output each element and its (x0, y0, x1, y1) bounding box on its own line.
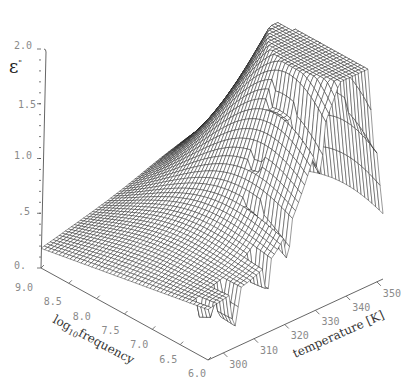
frequency-tick-label: 9.0 (15, 282, 33, 293)
z-tick-label: 1.0 (14, 150, 32, 161)
frequency-tick-label: 7.0 (130, 339, 148, 350)
temperature-tick-label: 340 (352, 302, 370, 313)
surface-plot: 2.01.51.0.50. ε" 9.08.58.07.57.06.56.0 l… (0, 0, 407, 390)
z-tick-label: .5 (18, 206, 30, 217)
frequency-tick-label: 8.5 (44, 296, 62, 307)
z-axis-title: ε" (9, 56, 22, 77)
z-axis: 2.01.51.0.50. (14, 40, 46, 271)
temperature-tick-label: 320 (291, 330, 309, 341)
z-tick-label: 1.5 (18, 99, 36, 110)
temperature-tick-label: 310 (260, 345, 278, 356)
z-tick-label: 2.0 (14, 40, 32, 51)
temperature-tick-label: 350 (383, 288, 401, 299)
frequency-axis-title: log10frequency (50, 312, 137, 368)
frequency-tick-label: 8.0 (73, 311, 91, 322)
temperature-tick-label: 330 (321, 316, 339, 327)
frequency-tick-label: 6.5 (159, 354, 177, 365)
z-tick-label: 0. (14, 260, 26, 271)
frequency-tick-label: 7.5 (102, 325, 120, 336)
wireframe-surface (41, 23, 383, 326)
frequency-tick-label: 6.0 (188, 368, 206, 379)
temperature-tick-label: 300 (229, 359, 247, 370)
